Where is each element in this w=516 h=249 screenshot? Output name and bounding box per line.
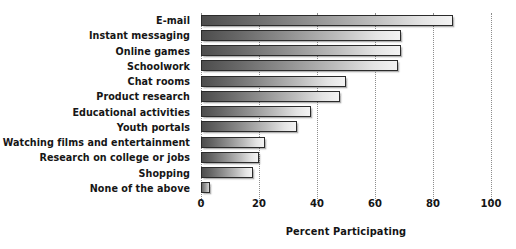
bar-row: [201, 166, 491, 181]
bar-research-on-college-or-jobs: [201, 152, 259, 163]
bar-educational-activities: [201, 106, 311, 117]
category-axis-labels: E-mailInstant messagingOnline gamesSchoo…: [0, 13, 196, 196]
bar-row: [201, 44, 491, 59]
bar-product-research: [201, 91, 340, 102]
bar-row: [201, 59, 491, 74]
bar-row: [201, 150, 491, 165]
bar-watching-films-and-entertainment: [201, 137, 265, 148]
gridline-100: [491, 13, 492, 203]
x-axis-title: Percent Participating: [201, 226, 491, 237]
bar-row: [201, 89, 491, 104]
x-tick-label: 0: [198, 198, 205, 209]
bar-chat-rooms: [201, 76, 346, 87]
x-tick-label: 60: [368, 198, 382, 209]
bar-row: [201, 13, 491, 28]
x-tick-label: 20: [252, 198, 266, 209]
bar-chart: E-mailInstant messagingOnline gamesSchoo…: [0, 0, 516, 249]
bar-none-of-the-above: [201, 182, 210, 193]
category-label: Online games: [116, 44, 190, 59]
plot-area: [201, 13, 491, 196]
bar-shopping: [201, 167, 253, 178]
category-label: Schoolwork: [127, 59, 190, 74]
bar-youth-portals: [201, 121, 297, 132]
x-tick-label: 100: [481, 198, 502, 209]
category-label: E-mail: [156, 13, 190, 28]
bar-row: [201, 74, 491, 89]
bar-row: [201, 181, 491, 196]
x-tick-label: 80: [426, 198, 440, 209]
bar-online-games: [201, 45, 401, 56]
bar-row: [201, 28, 491, 43]
x-tick-label: 40: [310, 198, 324, 209]
category-label: Educational activities: [72, 105, 190, 120]
category-label: Product research: [96, 89, 190, 104]
category-label: Research on college or jobs: [40, 150, 190, 165]
category-label: Chat rooms: [128, 74, 190, 89]
category-label: Watching films and entertainment: [3, 135, 190, 150]
category-label: Youth portals: [117, 120, 190, 135]
bar-instant-messaging: [201, 30, 401, 41]
category-label: Shopping: [139, 166, 190, 181]
bar-schoolwork: [201, 60, 398, 71]
bar-row: [201, 135, 491, 150]
x-axis-ticks: 020406080100: [201, 198, 491, 216]
bar-e-mail: [201, 15, 453, 26]
bar-row: [201, 120, 491, 135]
category-label: Instant messaging: [89, 28, 190, 43]
category-label: None of the above: [90, 181, 190, 196]
bar-row: [201, 105, 491, 120]
